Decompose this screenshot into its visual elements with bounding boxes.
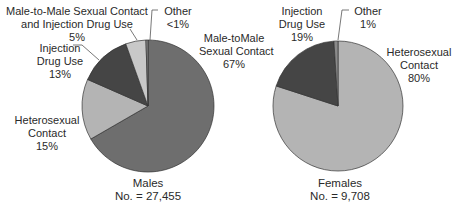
label-male-het: Heterosexual Contact 15% — [12, 114, 82, 153]
label-text: Heterosexual — [385, 46, 453, 59]
label-text: Other — [352, 5, 384, 18]
label-text: Contact — [385, 59, 453, 72]
label-value: 13% — [34, 68, 86, 81]
label-text: Heterosexual — [12, 114, 82, 127]
label-text: Drug Use — [34, 55, 86, 68]
label-text: Male-to-Male Sexual Contact — [2, 5, 152, 18]
males-caption: Males No. = 27,455 — [108, 177, 188, 203]
label-value: 67% — [199, 58, 269, 71]
label-value: 1% — [352, 18, 384, 31]
males-pie-chart — [82, 40, 214, 172]
label-text: Other — [160, 5, 196, 18]
chart-count: No. = 9,708 — [300, 190, 380, 203]
label-male-msmidu: Male-to-Male Sexual Contact and Injectio… — [2, 5, 152, 44]
chart-title: Males — [108, 177, 188, 190]
label-text: Drug Use — [277, 18, 327, 31]
leader-female-other — [338, 10, 349, 40]
label-text: Injection — [34, 42, 86, 55]
label-text: Male-toMale — [199, 32, 269, 45]
label-male-idu: Injection Drug Use 13% — [34, 42, 86, 81]
females-pie-chart — [273, 41, 403, 171]
label-text: Injection — [277, 5, 327, 18]
label-male-msm: Male-toMale Sexual Contact 67% — [199, 32, 269, 71]
females-caption: Females No. = 9,708 — [300, 177, 380, 203]
label-female-other: Other 1% — [352, 5, 384, 31]
label-text: Contact — [12, 127, 82, 140]
label-value: <1% — [160, 18, 196, 31]
label-value: 19% — [277, 31, 327, 44]
label-value: 80% — [385, 72, 453, 85]
label-text: Sexual Contact — [199, 45, 269, 58]
label-text: and Injection Drug Use — [2, 18, 152, 31]
label-value: 15% — [12, 140, 82, 153]
chart-title: Females — [300, 177, 380, 190]
label-female-het: Heterosexual Contact 80% — [385, 46, 453, 85]
chart-count: No. = 27,455 — [108, 190, 188, 203]
label-female-idu: Injection Drug Use 19% — [277, 5, 327, 44]
label-male-other: Other <1% — [160, 5, 196, 31]
